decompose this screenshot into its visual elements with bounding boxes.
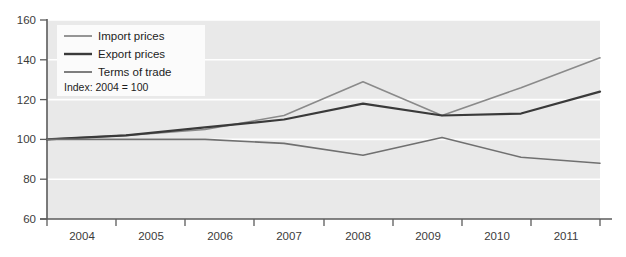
y-tick-label-100: 100 (17, 133, 36, 145)
x-tick-label-2009: 2009 (415, 230, 441, 242)
x-tick-label-2004: 2004 (69, 230, 95, 242)
legend-label-terms-of-trade: Terms of trade (98, 66, 172, 78)
x-tick-label-2010: 2010 (484, 230, 510, 242)
y-axis-ticks (40, 20, 47, 219)
y-tick-label-140: 140 (17, 54, 36, 66)
x-axis-ticks (47, 219, 600, 226)
chart-canvas: 160 140 120 100 80 60 2004 2005 2006 (0, 0, 626, 257)
legend-label-import-prices: Import prices (98, 30, 165, 42)
line-chart-figure: 160 140 120 100 80 60 2004 2005 2006 (0, 0, 626, 257)
x-tick-label-2005: 2005 (138, 230, 164, 242)
chart-page: 160 140 120 100 80 60 2004 2005 2006 (0, 0, 626, 257)
y-tick-label-60: 60 (23, 213, 36, 225)
legend-index-note: Index: 2004 = 100 (64, 81, 149, 93)
y-tick-label-160: 160 (17, 14, 36, 26)
y-tick-label-120: 120 (17, 94, 36, 106)
y-tick-label-80: 80 (23, 173, 36, 185)
chart-legend: Import prices Export prices Terms of tra… (57, 25, 205, 96)
x-tick-label-2006: 2006 (207, 230, 233, 242)
legend-label-export-prices: Export prices (98, 48, 165, 60)
x-tick-label-2008: 2008 (345, 230, 371, 242)
x-tick-label-2007: 2007 (276, 230, 302, 242)
x-tick-label-2011: 2011 (554, 230, 579, 242)
